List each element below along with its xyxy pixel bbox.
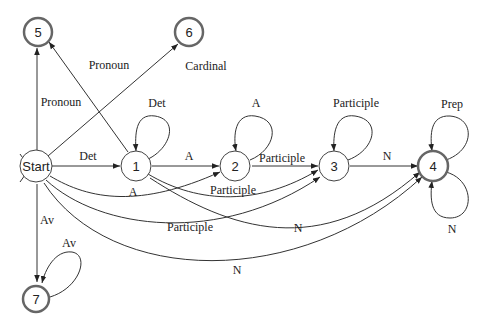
node-1: 1 xyxy=(121,151,151,181)
label-det-loop: Det xyxy=(148,96,166,110)
label-av-loop: Av xyxy=(62,236,76,250)
label-participle-2-3: Participle xyxy=(259,151,305,165)
node-2: 2 xyxy=(220,151,250,181)
label-n-start-4: N xyxy=(233,263,242,277)
label-n-loop: N xyxy=(448,222,457,236)
node-4: 4 xyxy=(418,151,448,181)
node-6: 6 xyxy=(175,18,203,46)
node-2-label: 2 xyxy=(231,159,238,174)
node-start: Start xyxy=(20,150,52,182)
label-det-start-1: Det xyxy=(79,149,97,163)
label-a-loop: A xyxy=(252,96,261,110)
edge-loop-7 xyxy=(42,252,81,297)
label-n-1-4: N xyxy=(294,221,303,235)
node-5: 5 xyxy=(24,18,52,46)
node-3-label: 3 xyxy=(330,159,337,174)
node-4-label: 4 xyxy=(429,159,436,174)
node-1-label: 1 xyxy=(132,159,139,174)
label-av-start-7: Av xyxy=(40,213,54,227)
label-participle-loop: Participle xyxy=(333,96,379,110)
node-5-label: 5 xyxy=(34,25,41,40)
label-pronoun-1-5: Pronoun xyxy=(89,58,130,72)
label-participle-1-3: Participle xyxy=(210,183,256,197)
label-a-start-2: A xyxy=(129,185,138,199)
node-6-label: 6 xyxy=(185,25,192,40)
label-pronoun-start-5: Pronoun xyxy=(41,95,82,109)
label-n-3-4: N xyxy=(383,149,392,163)
label-cardinal: Cardinal xyxy=(185,59,227,73)
node-7: 7 xyxy=(23,286,49,312)
node-start-label: Start xyxy=(22,159,50,174)
label-participle-start-3: Participle xyxy=(167,220,213,234)
fsa-diagram: Start 1 2 3 4 5 6 7 Pronoun Pronoun Card… xyxy=(0,0,489,329)
edge-start-3 xyxy=(46,177,320,223)
label-prep-loop: Prep xyxy=(441,97,463,111)
node-3: 3 xyxy=(319,151,349,181)
node-7-label: 7 xyxy=(32,292,39,307)
label-a-1-2: A xyxy=(185,149,194,163)
